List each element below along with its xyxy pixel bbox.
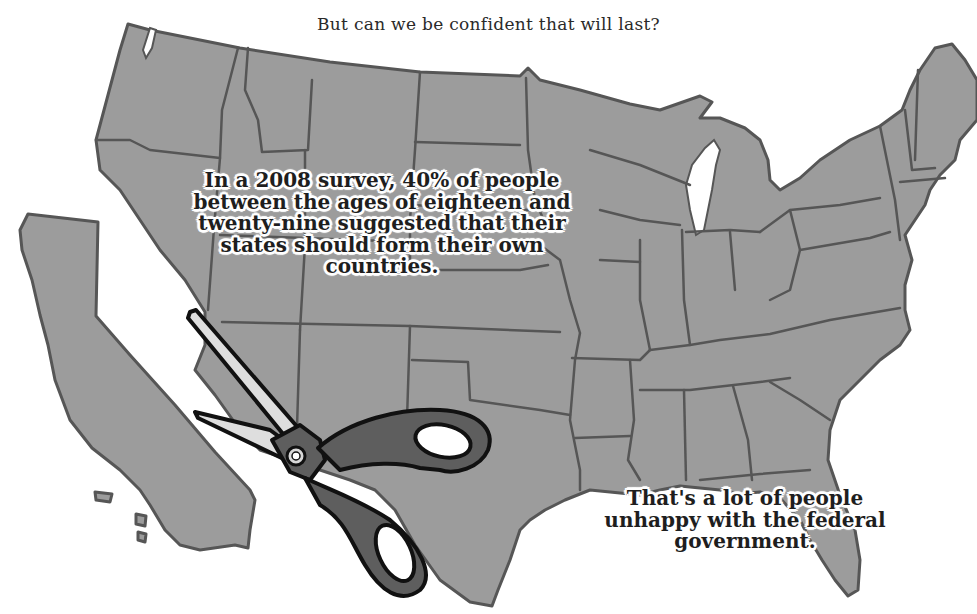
unhappy-caption: That's a lot of people unhappy with the … <box>590 488 900 553</box>
illustrated-map: But can we be confident that will last? <box>0 0 977 614</box>
channel-island <box>136 514 146 526</box>
channel-island <box>95 492 112 502</box>
channel-island <box>138 532 146 542</box>
survey-caption: In a 2008 survey, 40% of people between … <box>186 170 578 278</box>
